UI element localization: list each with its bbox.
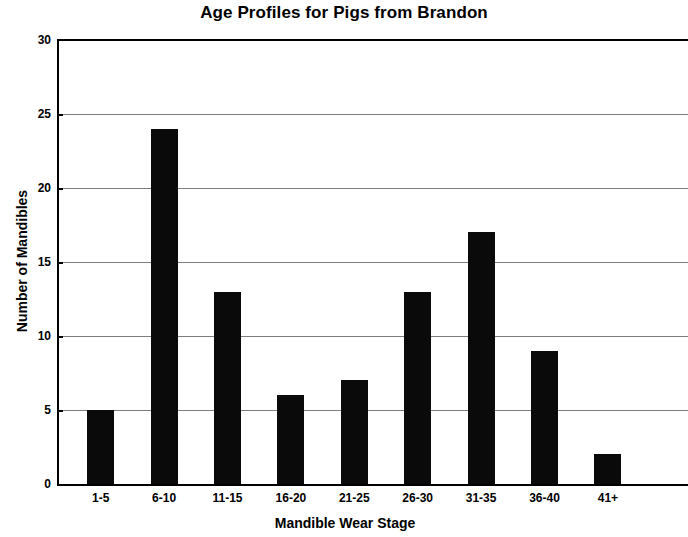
y-tick-label: 5 [7, 404, 51, 416]
bar [468, 232, 495, 484]
y-tick-label: 15 [7, 256, 51, 268]
bar [341, 380, 368, 484]
y-tick-label: 10 [7, 330, 51, 342]
gridline-25 [57, 114, 688, 115]
x-tick-label: 21-25 [319, 492, 389, 504]
x-tick-label: 41+ [573, 492, 643, 504]
y-tick-label: 25 [7, 108, 51, 120]
bar [87, 410, 114, 484]
bar [151, 129, 178, 484]
x-tick-label: 6-10 [129, 492, 199, 504]
y-tick-label: 0 [7, 478, 51, 490]
x-tick-label: 1-5 [66, 492, 136, 504]
y-tick-label: 30 [7, 34, 51, 46]
x-tick-label: 26-30 [383, 492, 453, 504]
bar [404, 292, 431, 484]
bar [214, 292, 241, 484]
x-axis-title: Mandible Wear Stage [57, 515, 633, 531]
bar [277, 395, 304, 484]
x-tick-label: 11-15 [193, 492, 263, 504]
x-tick-label: 36-40 [510, 492, 580, 504]
y-axis-tick-labels: 051015202530 [0, 40, 51, 484]
bar [531, 351, 558, 484]
bar [594, 454, 621, 484]
bar-chart-figure: Age Profiles for Pigs from Brandon Numbe… [0, 0, 688, 537]
y-axis-line [57, 40, 59, 484]
gridline-30 [57, 39, 688, 41]
plot-area [57, 40, 688, 484]
x-tick-label: 16-20 [256, 492, 326, 504]
y-tick-label: 20 [7, 182, 51, 194]
chart-title: Age Profiles for Pigs from Brandon [0, 3, 688, 23]
x-axis-line [57, 484, 688, 486]
x-axis-tick-labels: 1-56-1011-1516-2021-2526-3031-3536-4041+ [57, 492, 688, 510]
x-tick-label: 31-35 [446, 492, 516, 504]
